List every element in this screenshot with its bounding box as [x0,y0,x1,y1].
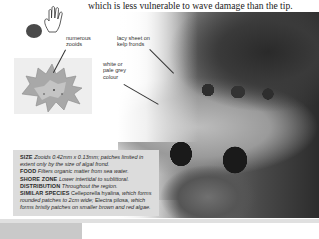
info-value: Filters organic matter from sea water. [38,168,129,174]
species-name: Electra pilosa [95,197,128,203]
hand-scale-icon [43,5,65,33]
label-line: pale grey [103,67,126,73]
info-key: DISTRIBUTION [20,183,60,189]
info-size: SIZE Zooids 0.42mm x 0.13mm; patches lim… [20,154,153,168]
label-white-colour: white or pale grey colour [103,61,126,80]
info-key: SIMILAR SPECIES [20,190,69,196]
info-distribution: DISTRIBUTION Throughout the region. [20,183,153,190]
label-line: kelp fronds [117,41,150,47]
info-value: Zooids 0.42mm x 0.13mm; patches limited … [20,154,143,167]
label-lacy-sheet: lacy sheet on kelp fronds [117,35,150,48]
info-shore-zone: SHORE ZONE Lower intertidal to sublittor… [20,176,153,183]
label-numerous-zooids: numerous zooids [66,35,91,48]
actual-size-blob-icon [26,24,42,38]
info-value: Lower intertidal to sublittoral. [59,176,129,182]
field-guide-page: which is less vulnerable to wave damage … [0,0,319,239]
info-value: Throughout the region. [62,183,118,189]
info-food: FOOD Filters organic matter from sea wat… [20,168,153,175]
info-key: SHORE ZONE [20,176,57,182]
species-name: Celleporella hyalina [71,190,119,196]
photo-fade [118,12,198,142]
label-line: colour [103,74,126,80]
label-line: zooids [66,41,91,47]
page-footer-strip [0,223,82,239]
info-key: SIZE [20,154,33,160]
intro-text: which is less vulnerable to wave damage … [88,0,319,11]
species-info-box: SIZE Zooids 0.42mm x 0.13mm; patches lim… [13,150,159,216]
page-footer-blank [82,223,319,239]
info-similar-species: SIMILAR SPECIES Celleporella hyalina, wh… [20,190,153,212]
specimen-illustration [14,58,92,114]
info-key: FOOD [20,168,36,174]
